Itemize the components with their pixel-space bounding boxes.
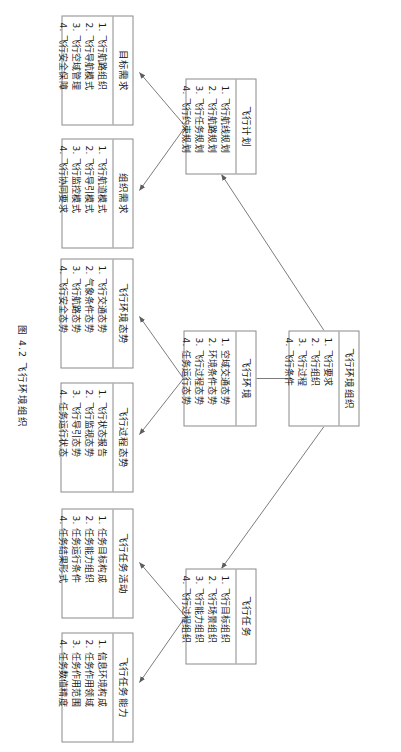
node-title: 飞行任务能力: [112, 633, 132, 741]
node-item: 1. 飞行航路组织: [94, 22, 107, 118]
node-item: 2. 飞行导引模式: [81, 145, 94, 241]
node-flight-task[interactable]: 飞行任务 1. 飞行目标组织 2. 飞行场景组织 3. 飞行能力组织 4. 飞行…: [185, 568, 256, 664]
node-item-list: 1. 飞行目标组织 2. 飞行场景组织 3. 飞行能力组织 4. 飞行过程组织: [174, 569, 235, 663]
node-title: 飞行计划: [235, 79, 255, 173]
node-title: 组织需求: [112, 139, 132, 247]
edge-root-to-plan: [221, 174, 324, 330]
node-item: 1. 飞行目标组织: [217, 575, 230, 657]
node-item: 3. 飞行过程态势: [191, 337, 204, 419]
node-item: 3. 飞行导引态势: [68, 389, 81, 485]
node-item: 4. 任务运行状态: [56, 389, 69, 485]
node-item: 3. 飞行任务规划: [191, 85, 204, 167]
node-title: 飞行任务: [235, 569, 255, 663]
node-item: 4. 飞行约束规划: [179, 85, 192, 167]
node-item: 3. 飞行监控模式: [68, 145, 81, 241]
node-item: 1. 飞行交通态势: [94, 265, 107, 361]
node-item: 2. 飞行航路规划: [204, 85, 217, 167]
node-item-list: 1. 飞行要求 2. 飞行组织 3. 飞行过程 4. 飞行条件: [277, 331, 338, 425]
node-item: 2. 飞行场景组织: [204, 575, 217, 657]
node-flight-task-activity[interactable]: 飞行任务活动 1. 任务目标构成 2. 任务能力组织 3. 任务运行条件 4. …: [61, 508, 133, 618]
node-item: 2. 飞行组织: [307, 337, 320, 419]
edge-root-to-task: [221, 426, 324, 568]
node-item: 3. 任务作用范围: [68, 639, 81, 735]
node-item: 3. 飞行过程: [294, 337, 307, 419]
node-flight-process-situation[interactable]: 飞行过程态势 1. 飞行状态报告 2. 飞行监视态势 3. 飞行导引态势 4. …: [60, 382, 133, 492]
node-item: 1. 空域交通态势: [217, 337, 230, 419]
node-item: 2. 飞行导航模式: [81, 22, 94, 118]
node-item: 4. 飞行安全保障: [56, 22, 69, 118]
node-item-list: 1. 飞行交通态势 2. 气象条件态势 3. 飞行航路态势 4. 飞行安全态势: [51, 259, 112, 367]
node-item-list: 1. 信息环境构成 2. 任务作用领域 3. 任务作用范围 4. 任务数值精度: [51, 633, 112, 741]
node-item: 1. 飞行状态报告: [94, 389, 107, 485]
node-flight-environment-situation[interactable]: 飞行环境态势 1. 飞行交通态势 2. 气象条件态势 3. 飞行航路态势 4. …: [60, 258, 133, 368]
figure-canvas: 飞行环境组织 1. 飞行要求 2. 飞行组织 3. 飞行过程 4. 飞行条件 飞…: [0, 0, 401, 752]
node-item: 2. 飞行监视态势: [81, 389, 94, 485]
node-item-list: 1. 飞行状态报告 2. 飞行监视态势 3. 飞行导引态势 4. 任务运行状态: [51, 383, 112, 491]
node-item: 1. 飞行航线规划: [217, 85, 230, 167]
node-item: 4. 任务运行态势: [179, 337, 192, 419]
diagram-stage: 飞行环境组织 1. 飞行要求 2. 飞行组织 3. 飞行过程 4. 飞行条件 飞…: [0, 0, 401, 752]
node-item: 4. 飞行过程组织: [179, 575, 192, 657]
node-item: 1. 信息环境构成: [94, 639, 107, 735]
node-title: 飞行过程态势: [112, 383, 132, 491]
node-flight-plan[interactable]: 飞行计划 1. 飞行航线规划 2. 飞行航路规划 3. 飞行任务规划 4. 飞行…: [185, 78, 256, 174]
node-item-list: 1. 飞行航路组织 2. 飞行导航模式 3. 飞行空域管理 4. 飞行安全保障: [51, 16, 112, 124]
node-goal-requirement[interactable]: 目标需求 1. 飞行航路组织 2. 飞行导航模式 3. 飞行空域管理 4. 飞行…: [61, 15, 133, 125]
node-item: 2. 气象条件态势: [81, 265, 94, 361]
figure-caption: 图 4.2 飞行环境组织: [15, 0, 29, 752]
node-title: 飞行任务活动: [112, 509, 132, 617]
node-item-list: 1. 任务目标构成 2. 任务能力组织 3. 任务运行条件 4. 任务结果形式: [51, 509, 112, 617]
node-flight-task-capability[interactable]: 飞行任务能力 1. 信息环境构成 2. 任务作用领域 3. 任务作用范围 4. …: [61, 632, 133, 742]
node-flight-environment[interactable]: 飞行环境 1. 空域交通态势 2. 环境条件态势 3. 飞行过程态势 4. 任务…: [183, 330, 256, 426]
node-item: 4. 任务数值精度: [56, 639, 69, 735]
node-item-list: 1. 飞行航道模式 2. 飞行导引模式 3. 飞行监控模式 4. 飞行协同要求: [51, 139, 112, 247]
node-item: 2. 任务作用领域: [81, 639, 94, 735]
node-item: 3. 任务运行条件: [68, 515, 81, 611]
node-item: 4. 任务结果形式: [56, 515, 69, 611]
node-organization-requirement[interactable]: 组织需求 1. 飞行航道模式 2. 飞行导引模式 3. 飞行监控模式 4. 飞行…: [61, 138, 133, 248]
node-item: 1. 飞行航道模式: [94, 145, 107, 241]
node-item: 1. 任务目标构成: [94, 515, 107, 611]
node-item: 4. 飞行协同要求: [56, 145, 69, 241]
node-flight-environment-organization[interactable]: 飞行环境组织 1. 飞行要求 2. 飞行组织 3. 飞行过程 4. 飞行条件: [288, 330, 359, 426]
node-title: 飞行环境组织: [338, 331, 358, 425]
node-item: 4. 飞行条件: [282, 337, 295, 419]
node-item: 3. 飞行能力组织: [191, 575, 204, 657]
node-item-list: 1. 空域交通态势 2. 环境条件态势 3. 飞行过程态势 4. 任务运行态势: [174, 331, 235, 425]
node-item: 4. 飞行安全态势: [56, 265, 69, 361]
node-title: 目标需求: [112, 16, 132, 124]
node-item: 3. 飞行航路态势: [68, 265, 81, 361]
node-item-list: 1. 飞行航线规划 2. 飞行航路规划 3. 飞行任务规划 4. 飞行约束规划: [174, 79, 235, 173]
node-title: 飞行环境态势: [112, 259, 132, 367]
node-item: 2. 环境条件态势: [204, 337, 217, 419]
node-item: 2. 任务能力组织: [81, 515, 94, 611]
node-title: 飞行环境: [235, 331, 255, 425]
node-item: 1. 飞行要求: [320, 337, 333, 419]
node-item: 3. 飞行空域管理: [68, 22, 81, 118]
